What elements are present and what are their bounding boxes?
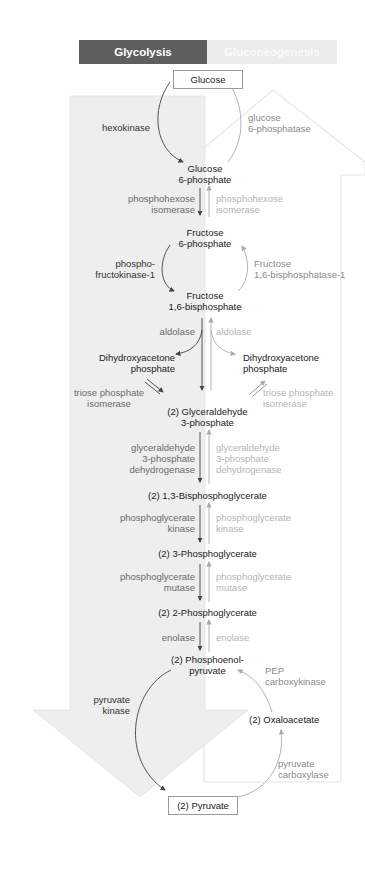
enzyme-triose-phosphate-isomerase-reverse: triose phosphate isomerase (263, 387, 333, 409)
tab-glycolysis: Glycolysis (79, 40, 207, 64)
metabolite-3-phosphoglycerate: (2) 3-Phosphoglycerate (145, 548, 270, 559)
enzyme-fructose-1-6-bisphosphatase-1: Fructose 1,6-bisphosphatase-1 (254, 258, 345, 280)
enzyme-aldolase-reverse: aldolase (216, 326, 251, 337)
metabolite-glyceraldehyde-3-phosphate: (2) Glyceraldehyde 3-phosphate (160, 406, 255, 428)
metabolite-2-phosphoglycerate: (2) 2-Phosphoglycerate (145, 607, 270, 618)
enzyme-enolase-forward: enolase (140, 632, 195, 643)
metabolite-1-3-bisphosphoglycerate: (2) 1,3-Bisphosphoglycerate (140, 490, 275, 501)
metabolite-dhap-glycolysis: Dihydroxyacetone phosphate (95, 352, 175, 374)
enzyme-phosphohexose-isomerase-reverse: phosphohexose isomerase (216, 193, 283, 215)
metabolite-fructose-6-phosphate: Fructose 6-phosphate (170, 227, 240, 249)
enzyme-pyruvate-carboxylase: pyruvate carboxylase (278, 758, 329, 780)
enzyme-phosphofructokinase-1: phospho- fructokinase-1 (75, 258, 155, 280)
enzyme-phosphoglycerate-mutase-reverse: phosphoglycerate mutase (216, 571, 291, 593)
enzyme-phosphoglycerate-mutase-forward: phosphoglycerate mutase (100, 571, 195, 593)
enzyme-hexokinase: hexokinase (90, 122, 150, 133)
enzyme-pyruvate-kinase: pyruvate kinase (85, 694, 130, 716)
metabolite-glucose-6-phosphate: Glucose 6-phosphate (170, 163, 240, 185)
enzyme-aldolase-forward: aldolase (140, 326, 195, 337)
enzyme-phosphoglycerate-kinase-forward: phosphoglycerate kinase (100, 512, 195, 534)
enzyme-pep-carboxykinase: PEP carboxykinase (265, 665, 326, 687)
enzyme-triose-phosphate-isomerase-forward: triose phosphate isomerase (70, 387, 148, 409)
pyruvate-box: (2) Pyruvate (168, 796, 238, 815)
tab-gluconeogenesis: Gluconeogenesis (207, 40, 337, 64)
metabolite-fructose-1-6-bisphosphate: Fructose 1,6-bisphosphate (160, 290, 250, 312)
metabolite-dhap-gluconeogenesis: Dihydroxyacetone phosphate (243, 352, 319, 374)
glucose-box: Glucose (173, 70, 243, 89)
enzyme-phosphoglycerate-kinase-reverse: phosphoglycerate kinase (216, 512, 291, 534)
metabolite-oxaloacetate: (2) Oxaloacetate (249, 714, 319, 725)
enzyme-gapdh-forward: glyceraldehyde 3-phosphate dehydrogenase (110, 442, 195, 475)
enzyme-phosphohexose-isomerase-forward: phosphohexose isomerase (110, 193, 195, 215)
enzyme-glucose-6-phosphatase: glucose 6-phosphatase (248, 112, 311, 134)
enzyme-gapdh-reverse: glyceraldehyde 3-phosphate dehydrogenase (216, 442, 282, 475)
metabolite-phosphoenolpyruvate: (2) Phosphoenol- pyruvate (160, 654, 255, 676)
glycolysis-gluconeogenesis-diagram: Glycolysis Gluconeogenesis Glucose Gluco… (0, 0, 365, 876)
enzyme-enolase-reverse: enolase (216, 632, 249, 643)
